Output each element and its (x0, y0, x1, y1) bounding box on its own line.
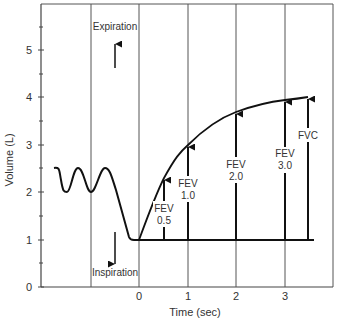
x-tick-label: 3 (282, 290, 288, 302)
x-tick-label: 1 (185, 290, 191, 302)
y-tick-label: 5 (26, 44, 32, 56)
y-tick-labels: 0 1 2 3 4 5 (26, 44, 32, 293)
fev20-label-line2: 2.0 (229, 171, 243, 182)
spirometry-chart: 0 1 2 3 4 5 0 1 2 3 Time (sec) Volume (L… (0, 0, 340, 324)
fvc-label: FVC (298, 130, 318, 141)
y-tick-label: 1 (26, 234, 32, 246)
y-axis-title: Volume (L) (3, 133, 15, 186)
y-tick-label: 4 (26, 91, 32, 103)
x-tick-label: 0 (136, 290, 142, 302)
expiration-label: Expiration (93, 21, 137, 32)
y-tick-label: 2 (26, 186, 32, 198)
y-tick-label: 3 (26, 139, 32, 151)
fev30-label-line2: 3.0 (278, 160, 292, 171)
fev20-label-line1: FEV (226, 159, 246, 170)
x-tick-label: 2 (233, 290, 239, 302)
tidal-breathing-curve (54, 168, 139, 240)
x-axis-title: Time (sec) (169, 306, 221, 318)
inspiration-label: Inspiration (92, 267, 138, 278)
y-tick-label: 0 (26, 281, 32, 293)
fev30-label-line1: FEV (275, 148, 295, 159)
fev05-label-line1: FEV (154, 203, 174, 214)
fev10-label-line1: FEV (178, 178, 198, 189)
fev05-label-line2: 0.5 (157, 215, 171, 226)
x-tick-labels: 0 1 2 3 (136, 290, 288, 302)
fev10-label-line2: 1.0 (181, 190, 195, 201)
